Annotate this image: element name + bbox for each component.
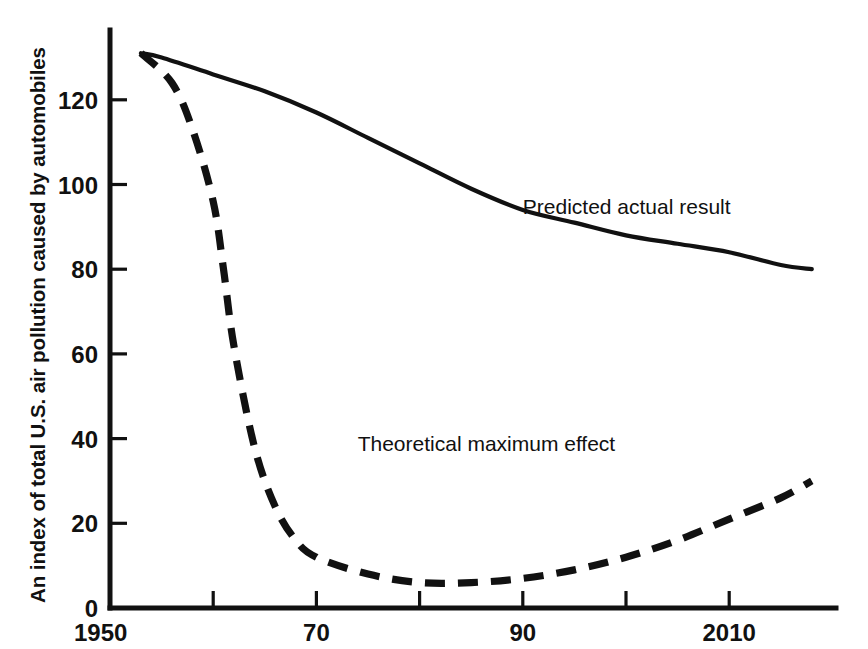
series-predicted-actual-result xyxy=(141,53,812,269)
chart-series-group xyxy=(141,53,812,583)
chart-plot-area: 020406080100120 195070902010 Predicted a… xyxy=(0,0,868,649)
y-tick-label-20: 20 xyxy=(71,510,98,537)
y-axis-tick-labels: 020406080100120 xyxy=(58,87,98,622)
series-label-theoretical-maximum-effect: Theoretical maximum effect xyxy=(358,432,616,455)
x-tick-label-1970: 70 xyxy=(303,619,330,646)
x-axis-ticks xyxy=(213,591,729,608)
y-tick-label-60: 60 xyxy=(71,341,98,368)
y-axis-ticks xyxy=(110,100,127,524)
x-axis-tick-labels: 195070902010 xyxy=(74,619,756,646)
y-tick-label-80: 80 xyxy=(71,256,98,283)
x-tick-label-1950: 1950 xyxy=(74,619,127,646)
x-tick-label-2010: 2010 xyxy=(703,619,756,646)
series-label-predicted-actual-result: Predicted actual result xyxy=(523,195,731,218)
y-tick-label-120: 120 xyxy=(58,87,98,114)
y-tick-label-40: 40 xyxy=(71,426,98,453)
y-tick-label-100: 100 xyxy=(58,172,98,199)
x-tick-label-1990: 90 xyxy=(509,619,536,646)
y-tick-label-0: 0 xyxy=(85,595,98,622)
series-theoretical-maximum-effect xyxy=(141,53,812,583)
chart-figure: An index of total U.S. air pollution cau… xyxy=(0,0,868,649)
